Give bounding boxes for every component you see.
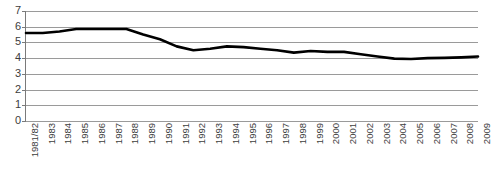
x-axis-tick-label: 2008 <box>465 123 475 144</box>
x-axis-tick-label: 1983 <box>47 123 57 144</box>
x-axis-tick-label: 1995 <box>248 123 258 144</box>
y-axis-tick-label: 0 <box>2 115 21 126</box>
x-axis-tick-label: 2005 <box>415 123 425 144</box>
x-axis-tick-label: 2007 <box>449 123 459 144</box>
y-axis-tick-label: 6 <box>2 21 21 32</box>
x-axis-tick-label: 1981/82 <box>30 123 40 157</box>
gridline-0 <box>26 121 478 122</box>
x-axis-tick-label: 1994 <box>231 123 241 144</box>
y-axis-tick-label: 1 <box>2 99 21 110</box>
x-axis-tick-label: 1997 <box>281 123 291 144</box>
y-axis-tick-label: 3 <box>2 68 21 79</box>
x-axis-tick-label: 1988 <box>130 123 140 144</box>
x-axis-tick-label: 1992 <box>197 123 207 144</box>
x-axis-tick-label: 1987 <box>114 123 124 144</box>
data-series-line <box>26 11 478 121</box>
x-axis-tick-label: 2006 <box>432 123 442 144</box>
x-axis-tick-label: 2002 <box>365 123 375 144</box>
x-axis-tick-label: 1993 <box>214 123 224 144</box>
x-axis-tick-label: 2001 <box>348 123 358 144</box>
x-axis-tick-label: 1986 <box>97 123 107 144</box>
x-axis-tick-label: 2009 <box>482 123 492 144</box>
x-axis-tick-label: 1998 <box>298 123 308 144</box>
x-axis-tick-label: 2004 <box>398 123 408 144</box>
x-axis-tick-label: 2000 <box>331 123 341 144</box>
y-axis-tick-label: 2 <box>2 84 21 95</box>
x-axis-tick-label: 2003 <box>382 123 392 144</box>
x-axis-tick-label: 1984 <box>63 123 73 144</box>
x-axis-tick-label: 1996 <box>264 123 274 144</box>
x-axis-labels: 1981/82198319841985198619871988198919901… <box>26 123 478 180</box>
x-axis-tick-label: 1991 <box>181 123 191 144</box>
y-axis-tick-label: 5 <box>2 36 21 47</box>
x-axis-tick-label: 1985 <box>80 123 90 144</box>
y-axis-tick-label: 4 <box>2 52 21 63</box>
x-axis-tick-label: 1989 <box>147 123 157 144</box>
y-axis-tick-label: 7 <box>2 5 21 16</box>
x-axis-tick-label: 1990 <box>164 123 174 144</box>
x-axis-tick-label: 1999 <box>315 123 325 144</box>
